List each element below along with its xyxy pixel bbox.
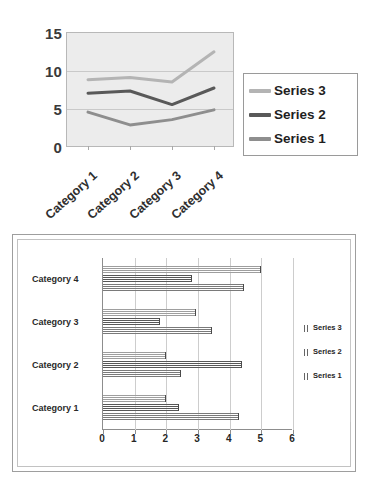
bar-chart-category-axis: Category 4 Category 3 Category 2 Categor… bbox=[32, 258, 98, 428]
legend-item-series-1: Series 1 bbox=[304, 370, 342, 382]
legend-item-series-3: Series 3 bbox=[249, 83, 326, 99]
y-tick-label: 5 bbox=[53, 102, 62, 117]
bar-chart-frame: Category 4 Category 3 Category 2 Categor… bbox=[17, 239, 351, 467]
x-tick-label: 3 bbox=[194, 434, 200, 444]
x-tick-label: 1 bbox=[131, 434, 137, 444]
line-chart-plot-area bbox=[66, 32, 234, 147]
legend-item-series-1: Series 1 bbox=[249, 131, 326, 147]
gridline bbox=[261, 258, 262, 430]
bar-series-2-category-4 bbox=[103, 275, 192, 282]
x-tick-label: 2 bbox=[163, 434, 169, 444]
legend-label: Series 1 bbox=[313, 372, 342, 380]
y-tick-label: 10 bbox=[45, 64, 62, 79]
legend-swatch-icon bbox=[304, 373, 310, 380]
series-1-line bbox=[88, 110, 214, 125]
bar-series-3-category-2 bbox=[103, 352, 166, 359]
bar-series-3-category-3 bbox=[103, 309, 196, 316]
legend-swatch-icon bbox=[249, 89, 271, 93]
gridline bbox=[293, 258, 294, 430]
legend-label: Series 1 bbox=[274, 132, 326, 146]
bar-chart-legend: Series 3 Series 2 Series 1 bbox=[304, 322, 360, 384]
bar-series-2-category-2 bbox=[103, 361, 242, 368]
category-label: Category 4 bbox=[32, 275, 98, 284]
line-chart-legend: Series 3 Series 2 Series 1 bbox=[243, 73, 358, 156]
x-tick-label: 4 bbox=[226, 434, 232, 444]
bar-chart-x-axis-labels: 0123456 bbox=[102, 434, 292, 450]
legend-item-series-2: Series 2 bbox=[304, 346, 342, 358]
legend-label: Series 2 bbox=[274, 108, 326, 122]
legend-label: Series 2 bbox=[313, 348, 342, 356]
line-chart-series-svg bbox=[67, 33, 233, 146]
legend-swatch-icon bbox=[304, 325, 310, 332]
x-tick-label: 6 bbox=[289, 434, 295, 444]
bar-series-3-category-1 bbox=[103, 395, 166, 402]
bar-series-1-category-3 bbox=[103, 327, 212, 334]
legend-item-series-2: Series 2 bbox=[249, 107, 326, 123]
category-label: Category 1 bbox=[32, 404, 98, 413]
bar-chart: Category 4 Category 3 Category 2 Categor… bbox=[12, 234, 356, 472]
bar-series-1-category-4 bbox=[103, 284, 244, 291]
x-tick-label: 0 bbox=[99, 434, 105, 444]
legend-swatch-icon bbox=[304, 349, 310, 356]
bar-series-3-category-4 bbox=[103, 266, 261, 273]
document-page: 15 10 5 0 Category 1 Category 2 Category… bbox=[0, 0, 368, 481]
series-3-line bbox=[88, 52, 214, 82]
series-2-line bbox=[88, 88, 214, 105]
line-chart: 15 10 5 0 Category 1 Category 2 Category… bbox=[0, 0, 368, 228]
category-label: Category 3 bbox=[32, 318, 98, 327]
legend-swatch-icon bbox=[249, 137, 271, 141]
category-label: Category 2 bbox=[32, 361, 98, 370]
y-tick-label: 15 bbox=[45, 26, 62, 41]
legend-item-series-3: Series 3 bbox=[304, 322, 342, 334]
line-chart-y-axis: 15 10 5 0 bbox=[18, 26, 62, 152]
bar-series-1-category-2 bbox=[103, 370, 181, 377]
bar-series-1-category-1 bbox=[103, 413, 239, 420]
x-tick-label: 5 bbox=[258, 434, 264, 444]
bar-chart-plot-area bbox=[102, 258, 292, 430]
line-chart-x-axis-labels: Category 1 Category 2 Category 3 Categor… bbox=[52, 148, 252, 220]
legend-swatch-icon bbox=[249, 113, 271, 117]
legend-label: Series 3 bbox=[274, 84, 326, 98]
bar-series-2-category-3 bbox=[103, 318, 160, 325]
bar-series-2-category-1 bbox=[103, 404, 179, 411]
legend-label: Series 3 bbox=[313, 324, 342, 332]
